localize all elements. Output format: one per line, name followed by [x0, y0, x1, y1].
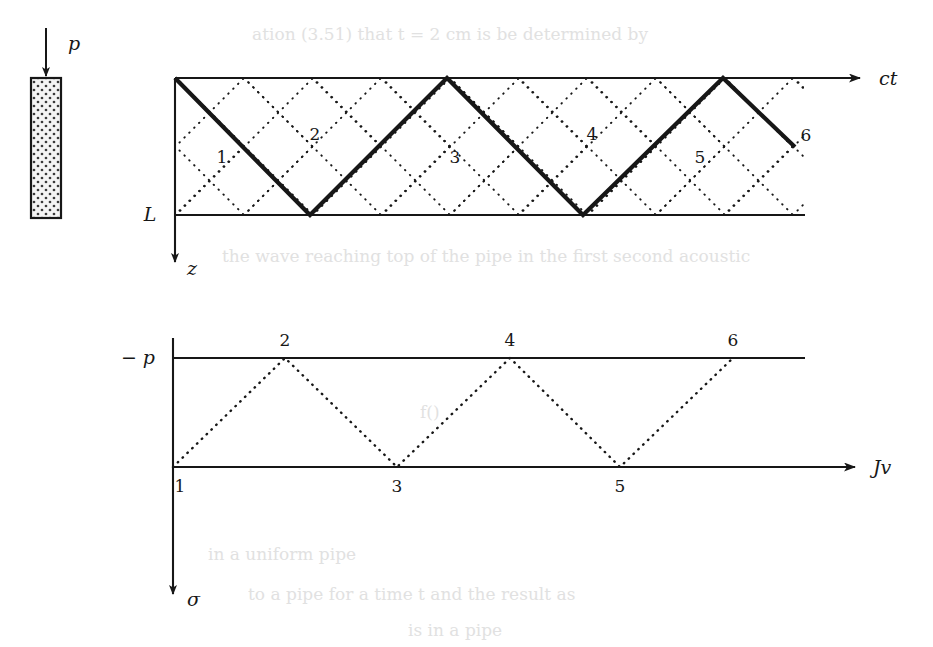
minus-p-label: − p: [121, 346, 155, 368]
bar-load-label: p: [68, 32, 80, 54]
region-label-4: 4: [587, 124, 598, 144]
point-label-5: 5: [615, 476, 626, 496]
svg-text:is in a pipe: is in a pipe: [408, 620, 502, 640]
characteristic-mesh: [38, 0, 931, 352]
region-label-6: 6: [801, 125, 812, 145]
ct-axis-label: ct: [879, 67, 898, 89]
stress-sawtooth-path: [173, 358, 733, 467]
upper-diagram: ct z L 1 2 3 4 5 6: [38, 0, 931, 352]
sigma-axis-label: σ: [187, 588, 201, 610]
depth-L-label: L: [143, 203, 157, 225]
loaded-bar-group: [31, 28, 61, 218]
point-label-1: 1: [175, 476, 186, 496]
region-label-1: 1: [217, 147, 228, 167]
point-label-2: 2: [280, 330, 291, 350]
svg-text:in a uniform pipe: in a uniform pipe: [208, 544, 356, 564]
bar-body: [31, 78, 61, 218]
region-label-3: 3: [450, 147, 461, 167]
point-label-6: 6: [728, 330, 739, 350]
svg-text:the wave reaching top of the p: the wave reaching top of the pipe in the…: [222, 246, 750, 266]
z-axis-label: z: [186, 257, 198, 279]
point-label-3: 3: [392, 476, 403, 496]
Jv-axis-label: Jv: [869, 456, 892, 478]
lower-diagram: Jv σ − p 1 2 3 4 5 6: [121, 330, 892, 610]
point-label-4: 4: [505, 330, 516, 350]
svg-text:ation (3.51) that t = 2 cm i: ation (3.51) that t = 2 cm is be determi…: [252, 24, 648, 44]
region-label-5: 5: [695, 147, 706, 167]
svg-text:to a pipe for a time t and th: to a pipe for a time t and the result as: [248, 584, 575, 604]
figure-root: ation (3.51) that t = 2 cm is be determi…: [0, 0, 933, 647]
svg-text:f(): f(): [420, 402, 440, 422]
region-label-2: 2: [310, 124, 321, 144]
diagram-canvas: ation (3.51) that t = 2 cm is be determi…: [0, 0, 933, 647]
